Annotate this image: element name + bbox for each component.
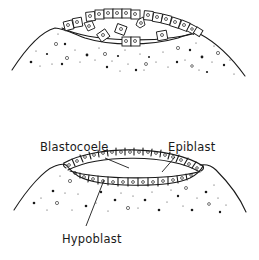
yolk-surface-top — [12, 28, 245, 76]
embryo-diagram: Blastocoele Epiblast Hypoblast — [0, 0, 259, 260]
blastocoele-leader — [105, 158, 129, 168]
label-epiblast: Epiblast — [168, 140, 216, 154]
yolk-surface-bottom — [14, 164, 246, 212]
hypoblast-cells-bottom — [74, 172, 193, 186]
yolk-granules-bottom — [33, 176, 227, 214]
label-hypoblast: Hypoblast — [62, 232, 122, 246]
hypoblast-leader — [86, 180, 104, 226]
top-panel — [12, 9, 245, 76]
epiblast-inner — [68, 158, 200, 172]
bottom-panel: Blastocoele Epiblast Hypoblast — [14, 140, 246, 246]
label-blastocoele: Blastocoele — [40, 140, 109, 154]
epiblast-leader — [162, 157, 175, 172]
